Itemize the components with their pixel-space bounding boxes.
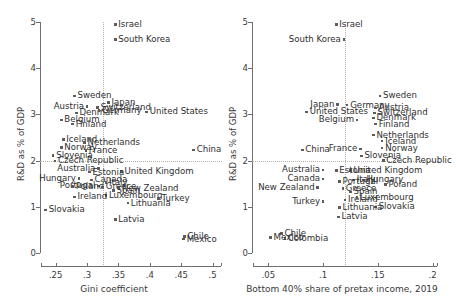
data-point <box>71 123 74 126</box>
data-point <box>88 171 91 174</box>
point-label: South Korea <box>118 35 170 44</box>
y-tick <box>248 22 252 23</box>
data-point <box>114 38 117 41</box>
data-point <box>192 149 195 152</box>
x-axis-title: Bottom 40% share of pretax income, 2019 <box>228 284 456 294</box>
point-label: Slovakia <box>49 205 85 214</box>
x-axis-cap <box>253 263 254 266</box>
y-tick <box>36 253 40 254</box>
x-tick <box>118 263 119 266</box>
data-point <box>344 199 347 202</box>
y-tick <box>36 207 40 208</box>
data-point <box>52 154 55 157</box>
x-tick <box>181 263 182 266</box>
data-point <box>145 111 148 114</box>
data-point <box>114 218 117 221</box>
point-label: United States <box>150 107 208 116</box>
data-point <box>360 155 363 158</box>
data-point <box>349 191 352 194</box>
x-axis-cap <box>221 263 222 266</box>
point-label: Lithuania <box>131 199 171 208</box>
data-point <box>338 206 341 209</box>
point-label: Mexico <box>274 233 304 242</box>
point-label: China <box>305 145 330 154</box>
data-point <box>73 95 76 98</box>
y-tick <box>248 253 252 254</box>
data-point <box>335 169 338 172</box>
data-point <box>384 183 387 186</box>
point-label: Poland <box>388 180 417 189</box>
data-point <box>338 180 341 183</box>
x-tick-label: .45 <box>167 270 195 280</box>
x-tick-label: .5 <box>199 270 227 280</box>
point-label: Austria <box>0 102 84 111</box>
x-tick-label: .2 <box>419 270 447 280</box>
data-point <box>73 196 76 199</box>
data-point <box>98 109 101 112</box>
data-point <box>114 23 117 26</box>
data-point <box>316 186 319 189</box>
point-label: Turkey <box>228 197 320 206</box>
y-tick-label: 5 <box>236 17 248 27</box>
point-label: Sweden <box>383 91 417 100</box>
y-tick-label: 1 <box>24 202 36 212</box>
data-point <box>60 119 63 122</box>
scatter-panel-left: 012345R&D as % of GDP.25.3.35.4.45.5Gini… <box>0 0 228 301</box>
y-tick <box>36 22 40 23</box>
point-label: Germany <box>102 106 142 115</box>
point-label: Sweden <box>78 91 112 100</box>
point-label: Poland <box>76 182 105 191</box>
data-point <box>305 111 308 114</box>
x-tick <box>213 263 214 266</box>
x-tick <box>323 263 324 266</box>
data-point <box>335 23 338 26</box>
data-point <box>322 169 325 172</box>
point-label: Israel <box>339 20 363 29</box>
y-tick-label: 0 <box>236 248 248 258</box>
x-tick-label: .1 <box>309 270 337 280</box>
point-label: Australia <box>0 164 95 173</box>
data-point <box>322 200 325 203</box>
point-label: New Zealand <box>228 183 315 192</box>
data-point <box>372 117 375 120</box>
point-label: Latvia <box>341 212 367 221</box>
point-label: Belgium <box>228 115 354 124</box>
data-point <box>336 103 339 106</box>
data-point <box>127 202 130 205</box>
data-point <box>269 236 272 239</box>
data-point <box>337 216 340 219</box>
data-point <box>374 123 377 126</box>
x-tick <box>268 263 269 266</box>
data-point <box>379 95 382 98</box>
data-point <box>372 134 375 137</box>
data-point <box>54 160 57 163</box>
point-label: Ireland <box>78 192 108 201</box>
x-tick <box>150 263 151 266</box>
y-tick <box>248 207 252 208</box>
x-axis-cap <box>437 263 438 266</box>
scatter-panel-right: 012345R&D as % of GDP.05.1.15.2Bottom 40… <box>228 0 456 301</box>
data-point <box>182 238 185 241</box>
x-tick-label: .3 <box>73 270 101 280</box>
data-point <box>101 186 104 189</box>
data-point <box>381 147 384 150</box>
data-point <box>381 140 384 143</box>
x-tick <box>56 263 57 266</box>
data-point <box>62 138 65 141</box>
x-axis-title: Gini coefficient <box>0 284 228 294</box>
data-point <box>44 209 47 212</box>
x-tick-label: .05 <box>254 270 282 280</box>
y-tick <box>36 114 40 115</box>
point-label: Czech Republic <box>386 156 451 165</box>
x-tick-label: .15 <box>364 270 392 280</box>
y-tick-label: 4 <box>24 63 36 73</box>
data-point <box>356 196 359 199</box>
y-tick-label: 0 <box>24 248 36 258</box>
x-tick <box>433 263 434 266</box>
point-label: Slovakia <box>379 202 415 211</box>
point-label: Finland <box>76 120 107 129</box>
x-tick <box>378 263 379 266</box>
point-label: Latvia <box>118 215 144 224</box>
data-point <box>374 107 377 110</box>
y-tick-label: 4 <box>236 63 248 73</box>
